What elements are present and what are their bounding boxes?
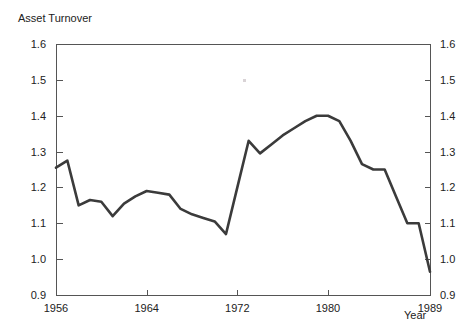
y-axis-right-tick-label: 0.9 bbox=[440, 289, 455, 301]
y-axis-left-tick-label: 1.4 bbox=[31, 110, 46, 122]
x-axis-tick-label: 1989 bbox=[418, 302, 442, 314]
data-series-group bbox=[56, 116, 430, 272]
y-axis-right-tick-label: 1.4 bbox=[440, 110, 455, 122]
y-axis-left-tick-label: 1.2 bbox=[31, 181, 46, 193]
y-axis-left-tick-label: 1.5 bbox=[31, 74, 46, 86]
y-axis-left-tick-label: 1.0 bbox=[31, 253, 46, 265]
axis-ticks bbox=[57, 81, 431, 296]
x-axis-tick-label: 1972 bbox=[225, 302, 249, 314]
chart-figure: Asset Turnover Year 0.91.01.11.21.31.41.… bbox=[0, 0, 476, 335]
scan-artifact-speck bbox=[243, 79, 246, 82]
y-axis-right-tick-label: 1.6 bbox=[440, 38, 455, 50]
x-axis-tick-label: 1956 bbox=[44, 302, 68, 314]
y-axis-right-tick-label: 1.2 bbox=[440, 181, 455, 193]
y-axis-left-tick-label: 0.9 bbox=[31, 289, 46, 301]
x-axis-tick-label: 1980 bbox=[316, 302, 340, 314]
y-axis-right-tick-label: 1.1 bbox=[440, 217, 455, 229]
y-axis-right-tick-label: 1.5 bbox=[440, 74, 455, 86]
y-axis-left-tick-label: 1.1 bbox=[31, 217, 46, 229]
y-axis-right-tick-label: 1.3 bbox=[440, 146, 455, 158]
data-series-line bbox=[56, 116, 430, 272]
y-axis-left-tick-label: 1.6 bbox=[31, 38, 46, 50]
y-axis-left-tick-label: 1.3 bbox=[31, 146, 46, 158]
y-axis-right-tick-label: 1.0 bbox=[440, 253, 455, 265]
line-chart-plot: 0.91.01.11.21.31.41.51.60.91.01.11.21.31… bbox=[0, 0, 476, 335]
x-axis-tick-label: 1964 bbox=[134, 302, 158, 314]
